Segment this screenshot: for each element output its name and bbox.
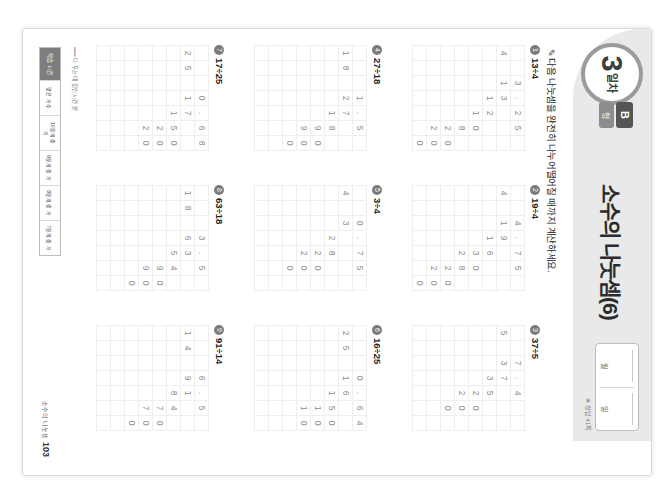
grid-cell[interactable]: 0 — [469, 261, 483, 276]
grid-cell[interactable] — [167, 341, 181, 356]
grid-cell[interactable] — [413, 261, 427, 276]
grid-cell[interactable] — [297, 276, 311, 291]
grid-cell[interactable] — [353, 326, 367, 341]
grid-cell[interactable] — [125, 401, 139, 416]
grid-cell[interactable]: 1 — [483, 91, 497, 106]
grid-cell[interactable]: . — [511, 91, 525, 106]
grid-cell[interactable] — [353, 46, 367, 61]
grid-cell[interactable] — [483, 416, 497, 431]
grid-cell[interactable]: 6 — [483, 246, 497, 261]
grid-cell[interactable]: 9 — [181, 371, 195, 386]
grid-cell[interactable] — [469, 201, 483, 216]
grid-cell[interactable] — [153, 371, 167, 386]
grid-cell[interactable] — [455, 201, 469, 216]
grid-cell[interactable] — [125, 76, 139, 91]
grid-cell[interactable] — [255, 201, 269, 216]
grid-cell[interactable] — [125, 106, 139, 121]
grid-cell[interactable] — [455, 61, 469, 76]
grid-cell[interactable] — [311, 326, 325, 341]
grid-cell[interactable] — [111, 276, 125, 291]
grid-cell[interactable]: . — [353, 386, 367, 401]
grid-cell[interactable]: 0 — [353, 371, 367, 386]
grid-cell[interactable]: 1 — [325, 386, 339, 401]
grid-cell[interactable]: 5 — [167, 121, 181, 136]
grid-cell[interactable] — [469, 356, 483, 371]
grid-cell[interactable] — [283, 91, 297, 106]
grid-cell[interactable] — [311, 276, 325, 291]
grid-cell[interactable] — [283, 401, 297, 416]
grid-cell[interactable] — [427, 341, 441, 356]
grid-cell[interactable] — [413, 121, 427, 136]
grid-cell[interactable]: 0 — [353, 216, 367, 231]
long-division-grid[interactable]: 4.7541916302820200 — [412, 185, 525, 291]
grid-cell[interactable] — [469, 186, 483, 201]
grid-cell[interactable]: 5 — [167, 246, 181, 261]
grid-cell[interactable] — [413, 231, 427, 246]
grid-cell[interactable] — [427, 356, 441, 371]
grid-cell[interactable] — [125, 201, 139, 216]
grid-cell[interactable] — [283, 76, 297, 91]
grid-cell[interactable]: 1 — [339, 46, 353, 61]
grid-cell[interactable] — [297, 386, 311, 401]
grid-cell[interactable] — [139, 216, 153, 231]
grid-cell[interactable] — [339, 246, 353, 261]
grid-cell[interactable]: 4 — [497, 186, 511, 201]
grid-cell[interactable]: 0 — [413, 276, 427, 291]
grid-cell[interactable] — [325, 326, 339, 341]
grid-cell[interactable]: . — [195, 386, 209, 401]
grid-cell[interactable] — [297, 371, 311, 386]
grid-cell[interactable] — [97, 261, 111, 276]
grid-cell[interactable]: 1 — [497, 216, 511, 231]
grid-cell[interactable] — [255, 106, 269, 121]
grid-cell[interactable] — [97, 416, 111, 431]
grid-cell[interactable] — [139, 231, 153, 246]
grid-cell[interactable] — [283, 121, 297, 136]
grid-cell[interactable] — [125, 186, 139, 201]
grid-cell[interactable] — [483, 46, 497, 61]
grid-cell[interactable] — [269, 76, 283, 91]
grid-cell[interactable]: 7 — [353, 246, 367, 261]
grid-cell[interactable] — [311, 61, 325, 76]
grid-cell[interactable]: 7 — [511, 356, 525, 371]
grid-cell[interactable] — [125, 231, 139, 246]
grid-cell[interactable] — [153, 356, 167, 371]
grid-cell[interactable] — [195, 61, 209, 76]
grid-cell[interactable] — [195, 276, 209, 291]
grid-cell[interactable] — [111, 401, 125, 416]
grid-cell[interactable] — [297, 76, 311, 91]
grid-cell[interactable]: 1 — [483, 231, 497, 246]
grid-cell[interactable]: 8 — [325, 121, 339, 136]
grid-cell[interactable] — [455, 231, 469, 246]
grid-cell[interactable] — [125, 261, 139, 276]
grid-cell[interactable] — [97, 231, 111, 246]
grid-cell[interactable]: 0 — [455, 401, 469, 416]
grid-cell[interactable] — [339, 276, 353, 291]
grid-cell[interactable] — [139, 76, 153, 91]
grid-cell[interactable] — [97, 371, 111, 386]
grid-cell[interactable] — [413, 46, 427, 61]
grid-cell[interactable]: 3 — [181, 246, 195, 261]
grid-cell[interactable] — [167, 356, 181, 371]
grid-cell[interactable] — [325, 46, 339, 61]
grid-cell[interactable]: 5 — [353, 261, 367, 276]
grid-cell[interactable] — [413, 416, 427, 431]
grid-cell[interactable] — [511, 201, 525, 216]
grid-cell[interactable] — [483, 136, 497, 151]
grid-cell[interactable] — [125, 246, 139, 261]
grid-cell[interactable] — [441, 341, 455, 356]
grid-cell[interactable] — [111, 46, 125, 61]
grid-cell[interactable] — [269, 61, 283, 76]
grid-cell[interactable] — [325, 136, 339, 151]
grid-cell[interactable] — [497, 276, 511, 291]
grid-cell[interactable]: 8 — [455, 121, 469, 136]
grid-cell[interactable]: 2 — [311, 246, 325, 261]
grid-cell[interactable]: 2 — [455, 246, 469, 261]
grid-cell[interactable]: 4 — [353, 416, 367, 431]
grid-cell[interactable]: 1 — [469, 106, 483, 121]
long-division-grid[interactable]: 7.45373520200 — [412, 325, 525, 431]
grid-cell[interactable] — [325, 201, 339, 216]
grid-cell[interactable] — [497, 261, 511, 276]
grid-cell[interactable] — [441, 186, 455, 201]
grid-cell[interactable] — [353, 201, 367, 216]
grid-cell[interactable] — [269, 261, 283, 276]
